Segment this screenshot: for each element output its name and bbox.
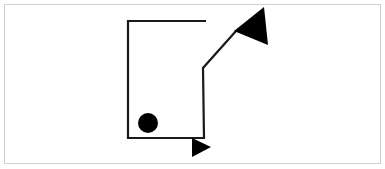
small-right-pointing-triangle — [192, 138, 211, 157]
filled-circle — [138, 113, 158, 133]
figure-frame-container — [0, 0, 385, 169]
figure-canvas — [0, 0, 385, 169]
large-left-pointing-triangle — [234, 7, 268, 45]
diagram-svg — [0, 0, 385, 169]
